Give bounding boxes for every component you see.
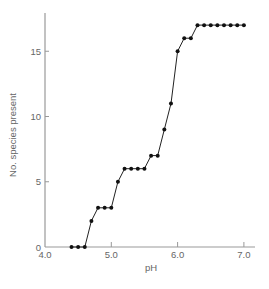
- data-point: [182, 36, 186, 40]
- x-tick-label: 5.0: [105, 249, 118, 260]
- data-point: [123, 167, 127, 171]
- y-ticks: 051015: [30, 46, 49, 253]
- data-point: [162, 128, 166, 132]
- data-point: [76, 245, 80, 249]
- chart: 051015 No. species present 4.05.06.07.0 …: [0, 0, 269, 289]
- data-point: [149, 154, 153, 158]
- data-point: [222, 23, 226, 27]
- x-ticks: 4.05.06.07.0: [38, 242, 250, 260]
- data-point: [136, 167, 140, 171]
- data-point: [209, 23, 213, 27]
- data-point: [116, 180, 120, 184]
- data-point: [176, 49, 180, 53]
- data-line: [72, 25, 244, 247]
- data-point: [202, 23, 206, 27]
- data-point: [242, 23, 246, 27]
- y-axis: 051015 No. species present: [7, 13, 49, 253]
- y-axis-label: No. species present: [7, 93, 18, 177]
- data-point: [195, 23, 199, 27]
- data-point: [83, 245, 87, 249]
- x-axis-label: pH: [145, 262, 157, 273]
- data-point: [109, 206, 113, 210]
- data-point: [169, 101, 173, 105]
- data-point: [96, 206, 100, 210]
- data-point: [229, 23, 233, 27]
- plot-area: [70, 23, 246, 249]
- y-tick-label: 5: [36, 176, 41, 187]
- y-tick-label: 15: [30, 46, 41, 57]
- x-tick-label: 7.0: [237, 249, 250, 260]
- data-point: [142, 167, 146, 171]
- data-point: [103, 206, 107, 210]
- data-point: [156, 154, 160, 158]
- data-point: [129, 167, 133, 171]
- data-point: [189, 36, 193, 40]
- y-tick-label: 10: [30, 111, 41, 122]
- x-tick-label: 6.0: [171, 249, 184, 260]
- data-point: [89, 219, 93, 223]
- x-tick-label: 4.0: [38, 249, 51, 260]
- data-point: [215, 23, 219, 27]
- data-point: [70, 245, 74, 249]
- data-point: [235, 23, 239, 27]
